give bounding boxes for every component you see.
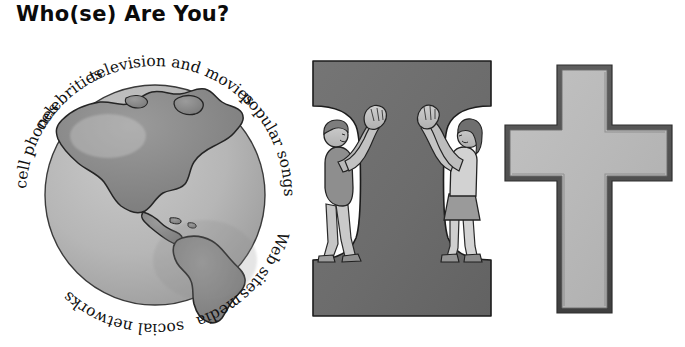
ring-label-media: media xyxy=(194,291,246,330)
letter-i-graphic xyxy=(305,48,500,333)
keyword-ring: cell phones celebrities television and m… xyxy=(0,32,310,347)
boy-back-shoe xyxy=(318,255,335,262)
letter-i-panel xyxy=(305,48,500,333)
ring-label-social-networks: social networks xyxy=(60,288,186,338)
ring-label-media-text: media xyxy=(194,291,246,330)
cross-inner-face xyxy=(510,70,667,308)
illustration-page: Who(se) Are You? xyxy=(0,0,685,347)
ring-label-popular-songs-text: popular songs xyxy=(238,88,298,197)
girl-front-shoe xyxy=(464,254,482,262)
cross-panel xyxy=(500,48,685,333)
ring-label-television-and-movies: television and movies xyxy=(86,52,258,109)
ring-label-web-sites: Web sites xyxy=(236,230,292,304)
boy-front-shoe xyxy=(342,254,361,262)
girl-back-shoe xyxy=(441,254,459,262)
boy-front-leg xyxy=(336,205,356,261)
ring-label-web-sites-text: Web sites xyxy=(236,230,292,304)
page-title: Who(se) Are You? xyxy=(16,2,230,26)
girl-skirt xyxy=(444,194,480,220)
cross-graphic xyxy=(500,48,685,333)
globe-panel: cell phones celebrities television and m… xyxy=(0,32,310,347)
ring-label-television-and-movies-text: television and movies xyxy=(86,52,258,109)
ring-label-social-networks-text: social networks xyxy=(60,288,186,338)
boy-back-leg xyxy=(323,204,338,260)
ring-label-popular-songs: popular songs xyxy=(238,88,298,197)
